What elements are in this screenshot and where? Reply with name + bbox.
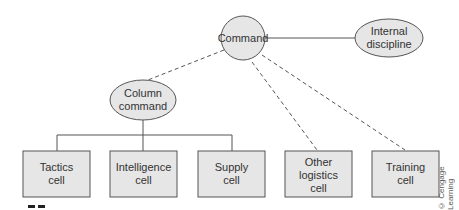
node-intelligence-cell: Intelligence cell [110,151,177,197]
training-label-1: Training [386,161,425,173]
copyright-text: © Cengage Learning [437,140,455,210]
svg-text:discipline: discipline [366,38,411,50]
intelligence-label-2: cell [135,174,152,186]
training-label-2: cell [397,174,414,186]
column-command-label-2: command [119,100,167,112]
svg-text:cell: cell [310,182,327,194]
svg-text:cell: cell [397,174,414,186]
supply-label-1: Supply [215,161,249,173]
svg-text:cell: cell [48,174,65,186]
caption-mark [38,205,45,208]
org-diagram: Command Internal discipline Column comma… [0,0,459,210]
supply-label-2: cell [223,174,240,186]
intelligence-label-1: Intelligence [116,161,172,173]
svg-text:command: command [119,100,167,112]
node-command: Command [218,16,269,60]
tactics-label-1: Tactics [40,161,74,173]
caption-mark [28,205,35,208]
edge-command-other-logistics [252,62,317,150]
other-logistics-label-2: logistics [299,169,339,181]
svg-text:Supply: Supply [215,161,249,173]
svg-text:Tactics: Tactics [40,161,74,173]
svg-text:cell: cell [135,174,152,186]
internal-discipline-label-2: discipline [366,38,411,50]
svg-text:Command: Command [218,32,269,44]
internal-discipline-label-1: Internal [371,25,408,37]
svg-text:cell: cell [223,174,240,186]
node-tactics-cell: Tactics cell [23,151,90,197]
node-internal-discipline: Internal discipline [355,19,423,57]
node-training-cell: Training cell [372,151,439,197]
node-column-command: Column command [110,80,176,120]
node-supply-cell: Supply cell [198,151,265,197]
svg-text:Column: Column [124,87,162,99]
command-label: Command [218,32,269,44]
svg-text:Internal: Internal [371,25,408,37]
svg-text:Other: Other [305,156,333,168]
svg-text:Training: Training [386,161,425,173]
other-logistics-label-3: cell [310,182,327,194]
edge-command-column-command [148,50,224,80]
column-command-label-1: Column [124,87,162,99]
node-other-logistics-cell: Other logistics cell [285,151,352,197]
edge-command-training [262,55,405,150]
svg-text:Intelligence: Intelligence [116,161,172,173]
svg-text:logistics: logistics [299,169,339,181]
tactics-label-2: cell [48,174,65,186]
other-logistics-label-1: Other [305,156,333,168]
